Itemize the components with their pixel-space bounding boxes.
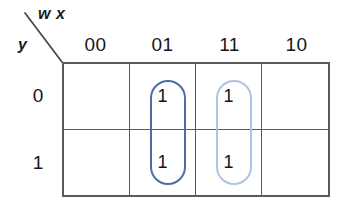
kmap-cell-value: 1 (157, 86, 167, 107)
kmap-cell-r0-c01: 1 (130, 64, 196, 130)
column-variables-label: w x (38, 5, 65, 23)
kmap-cell-value: 1 (223, 152, 233, 173)
axis-corner: w x y (0, 0, 70, 70)
kmap-cell-r0-c11: 1 (196, 64, 262, 130)
column-header-11: 11 (196, 30, 263, 60)
row-header-column: 0 1 (20, 62, 62, 197)
row-header-1: 1 (20, 130, 62, 198)
kmap-cell-r1-c10 (262, 130, 328, 196)
kmap-cell-value: 1 (157, 152, 167, 173)
row-header-0: 0 (20, 62, 62, 130)
karnaugh-map-diagram: w x y 00 01 11 10 0 1 1 1 1 1 (0, 0, 348, 217)
column-header-00: 00 (62, 30, 129, 60)
row-variable-label: y (18, 36, 27, 54)
kmap-cell-r1-c01: 1 (130, 130, 196, 196)
kmap-cell-r0-c10 (262, 64, 328, 130)
column-header-10: 10 (263, 30, 330, 60)
column-header-row: 00 01 11 10 (62, 30, 330, 60)
kmap-cell-value: 1 (223, 86, 233, 107)
kmap-cell-r1-c00 (64, 130, 130, 196)
kmap-cell-r0-c00 (64, 64, 130, 130)
kmap-cell-grid: 1 1 1 1 (62, 62, 330, 197)
column-header-01: 01 (129, 30, 196, 60)
kmap-cell-r1-c11: 1 (196, 130, 262, 196)
